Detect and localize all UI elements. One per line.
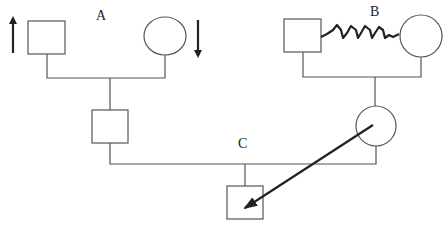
b-child-circle	[356, 106, 396, 146]
label-b: B	[370, 4, 379, 20]
b-mother-circle	[400, 15, 442, 57]
c-child-square	[227, 186, 263, 219]
a-child-square	[92, 110, 128, 143]
a-father-square	[28, 21, 65, 54]
pedigree-diagram	[0, 0, 446, 229]
a-mother-circle	[144, 17, 186, 55]
zigzag-relationship-line	[321, 25, 399, 38]
label-a: A	[96, 8, 106, 24]
a-mating-line	[47, 54, 165, 78]
b-mating-line	[303, 52, 421, 77]
transmission-arrow	[245, 125, 373, 208]
label-c: C	[238, 136, 247, 152]
b-father-square	[284, 19, 321, 52]
